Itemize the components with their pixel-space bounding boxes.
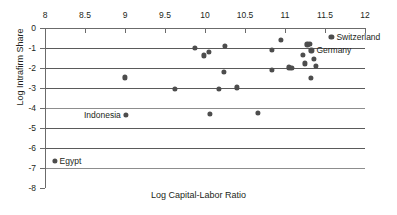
x-axis-tick-label: 8.5	[79, 10, 91, 20]
point-label-indonesia: Indonesia	[84, 110, 121, 120]
y-axis-tick	[40, 188, 45, 189]
x-axis-title: Log Capital-Labor Ratio	[0, 190, 397, 200]
x-axis-tick-label: 9	[123, 10, 128, 20]
x-axis-tick-label: 10.5	[237, 10, 254, 20]
y-axis-line	[45, 28, 46, 188]
gridline	[45, 128, 365, 129]
x-axis-line	[45, 28, 365, 29]
x-axis-tick-label: 11.5	[317, 10, 333, 20]
point-label-germany: Germany	[316, 45, 351, 55]
scatter-chart-figure: 88.599.51010.51111.512 0-1-2-3-4-5-6-7-8…	[0, 0, 397, 215]
gridline	[45, 148, 365, 149]
point-label-egypt: Egypt	[60, 156, 82, 166]
x-axis-tick-label: 10	[200, 10, 209, 20]
x-axis-tick-label: 12	[360, 10, 369, 20]
point-label-switzerland: Switzerland	[336, 32, 380, 42]
y-axis-title: Log Intrafirm Share	[15, 0, 25, 137]
gridline	[45, 88, 365, 89]
x-axis-tick-label: 11	[281, 10, 290, 20]
gridline	[45, 168, 365, 169]
y-axis-tick-label: -6	[20, 143, 36, 153]
x-axis-tick-label: 9.5	[159, 10, 171, 20]
x-axis-tick-label: 8	[43, 10, 48, 20]
y-axis-tick-label: -7	[20, 163, 36, 173]
